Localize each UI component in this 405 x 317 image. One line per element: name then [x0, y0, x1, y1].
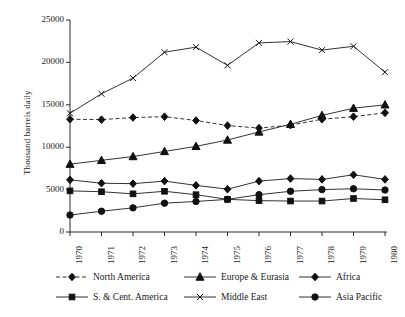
data-point-marker: [130, 114, 137, 122]
data-point-marker: [319, 198, 325, 204]
data-series-group: [66, 39, 389, 219]
data-point-marker: [67, 176, 74, 184]
data-point-marker: [382, 69, 388, 75]
legend-item-asia-pacific[interactable]: Asia Pacific: [298, 288, 382, 306]
data-point-marker: [382, 197, 388, 203]
data-point-marker: [161, 177, 168, 185]
data-point-marker: [312, 294, 318, 300]
data-point-marker: [350, 171, 357, 179]
legend-row: S. & Cent. AmericaMiddle EastAsia Pacifi…: [0, 288, 405, 306]
legend-item-north-america[interactable]: North America: [55, 268, 150, 286]
data-point-marker: [98, 116, 105, 124]
legend-marker-x-icon: [183, 290, 217, 304]
data-point-marker: [256, 177, 263, 185]
data-point-marker: [193, 117, 200, 125]
data-point-marker: [130, 180, 137, 188]
legend-label: Europe & Eurasia: [217, 272, 289, 282]
data-point-marker: [224, 185, 231, 193]
data-point-marker: [319, 186, 325, 192]
legend-marker-circle-icon: [298, 290, 332, 304]
data-point-marker: [130, 75, 136, 81]
data-point-marker: [162, 188, 168, 194]
legend-label: North America: [89, 272, 150, 282]
data-point-marker: [161, 200, 167, 206]
data-point-marker: [312, 273, 319, 281]
data-point-marker: [161, 113, 168, 121]
legend-label: Middle East: [217, 292, 267, 302]
legend-marker-diamond-icon: [55, 270, 89, 284]
chart-legend: North AmericaEurope & EurasiaAfricaS. & …: [0, 268, 405, 314]
data-point-marker: [225, 62, 231, 68]
data-point-marker: [98, 208, 104, 214]
data-point-marker: [130, 205, 136, 211]
legend-label: S. & Cent. America: [89, 292, 168, 302]
data-point-marker: [382, 187, 388, 193]
series-africa: [67, 171, 389, 193]
series-europe-eurasia: [66, 101, 389, 168]
data-point-marker: [67, 212, 73, 218]
data-point-marker: [288, 198, 294, 204]
legend-row: North AmericaEurope & EurasiaAfrica: [0, 268, 405, 286]
data-point-marker: [193, 192, 199, 198]
data-point-marker: [287, 175, 294, 183]
data-point-marker: [67, 188, 73, 194]
data-point-marker: [382, 109, 389, 117]
data-point-marker: [224, 196, 230, 202]
legend-label: Asia Pacific: [332, 292, 382, 302]
legend-label: Africa: [332, 272, 360, 282]
data-point-marker: [193, 198, 199, 204]
data-point-marker: [224, 122, 231, 130]
data-point-marker: [99, 91, 105, 97]
data-point-marker: [350, 113, 357, 121]
legend-item-africa[interactable]: Africa: [298, 268, 360, 286]
data-point-marker: [287, 188, 293, 194]
legend-marker-square-icon: [55, 290, 89, 304]
legend-item-europe-eurasia[interactable]: Europe & Eurasia: [183, 268, 289, 286]
data-point-marker: [98, 179, 105, 187]
legend-item-s-cent-america[interactable]: S. & Cent. America: [55, 288, 168, 306]
legend-marker-diamond-icon: [298, 270, 332, 284]
data-point-marker: [256, 191, 262, 197]
series-line: [70, 105, 385, 164]
data-point-marker: [319, 176, 326, 184]
data-point-marker: [99, 189, 105, 195]
line-chart: Thousand barrels daily 05000100001500020…: [0, 0, 405, 317]
legend-marker-triangle-icon: [183, 270, 217, 284]
data-point-marker: [381, 101, 389, 108]
data-point-marker: [351, 196, 357, 202]
legend-item-middle-east[interactable]: Middle East: [183, 288, 267, 306]
data-point-marker: [130, 191, 136, 197]
series-middle-east: [67, 39, 388, 117]
data-point-marker: [69, 294, 75, 300]
data-point-marker: [350, 186, 356, 192]
series-line: [70, 42, 385, 114]
data-point-marker: [67, 115, 74, 123]
data-point-marker: [382, 176, 389, 184]
data-point-marker: [256, 198, 262, 204]
data-point-marker: [69, 273, 76, 281]
data-point-marker: [193, 182, 200, 190]
series-north-america: [67, 109, 389, 132]
